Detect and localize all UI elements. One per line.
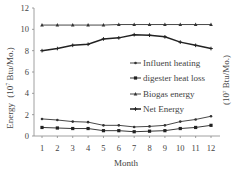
series-line [42,116,211,127]
x-tick-label: 12 [207,143,216,153]
marker-square [194,126,197,129]
marker-plus [133,126,136,129]
y-tick-label: 10 [21,24,30,34]
legend-item: Net Energy [130,104,185,114]
line-chart: 024681012123456789101112 Influent heatin… [0,0,232,172]
marker-square [56,126,59,129]
series-line [42,35,211,51]
x-tick-label: 2 [55,143,59,153]
marker-plus [148,125,151,128]
legend: Influent heatingdigester heat lossBiogas… [130,58,205,114]
legend-label: Net Energy [143,104,185,114]
x-tick-label: 1 [40,143,44,153]
marker-square [179,127,182,130]
marker-square [209,124,212,127]
x-tick-label: 9 [163,143,167,153]
series-biogas-energy [40,23,213,27]
x-tick-label: 5 [101,143,105,153]
series-influent-heating [41,115,213,128]
x-tick-label: 6 [117,143,121,153]
marker-plus [71,120,74,123]
x-axis-label: Month [114,158,139,168]
y-tick-label: 6 [25,67,29,77]
series-digester-heat-loss [40,124,212,134]
marker-plus [134,62,137,65]
marker-square [40,126,43,129]
y-tick-label: 8 [25,46,29,56]
y-axis-label-rest: Btu/Mo.) [5,47,15,83]
marker-square [71,127,74,130]
marker-plus [56,119,59,122]
y-tick-label: 12 [21,3,30,13]
y-axis-label: Energy (107 Btu/Mo.) [5,47,15,129]
marker-plus [179,120,182,123]
marker-square [148,130,151,133]
marker-plus [87,121,90,124]
marker-square [102,129,105,132]
marker-square [134,76,137,79]
y-tick-label: 4 [25,88,30,98]
x-tick-label: 4 [86,143,91,153]
legend-label: Biogas energy [143,89,195,99]
svg-text:Energy (107 Btu/Mo.): Energy (107 Btu/Mo.) [5,47,15,129]
legend-label: Influent heating [143,58,201,68]
svg-text:(107 Btu/Mo.): (107 Btu/Mo.) [221,55,231,105]
marker-square [133,130,136,133]
marker-plus [164,124,167,127]
marker-plus [210,115,213,118]
marker-plus [194,118,197,121]
y-axis-label-unit: (10 [5,85,15,97]
y-tick-label: 0 [25,131,29,141]
marker-plus [118,124,121,127]
series-line [42,25,211,26]
x-tick-label: 10 [176,143,185,153]
marker-square [117,129,120,132]
marker-plus [102,124,105,127]
y-axis-label-main: Energy [5,102,15,128]
legend-item: digester heat loss [130,73,205,83]
x-tick-label: 7 [132,143,136,153]
x-tick-label: 11 [192,143,200,153]
series-net-energy [40,33,213,53]
y-tick-label: 2 [25,110,29,120]
marker-plus [41,118,44,121]
marker-square [163,129,166,132]
cropped-adjacent-axis-label: (107 Btu/Mo.) [221,55,231,105]
legend-label: digester heat loss [143,73,205,83]
x-tick-label: 8 [147,143,151,153]
legend-item: Influent heating [130,58,201,68]
x-tick-label: 3 [71,143,75,153]
legend-item: Biogas energy [130,89,195,99]
marker-square [86,127,89,130]
